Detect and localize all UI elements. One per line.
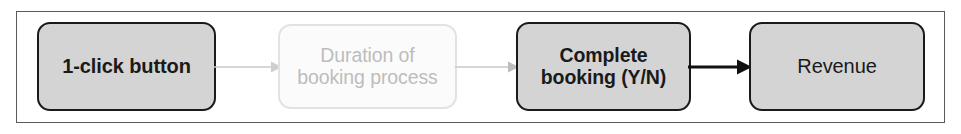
node-duration-of-booking-process-label: Duration of booking process (291, 45, 444, 89)
arrow-complete-booking-to-revenue (688, 53, 752, 81)
arrow-one-click-to-duration (214, 53, 282, 81)
node-revenue[interactable]: Revenue (749, 22, 925, 111)
node-complete-booking-label: Complete booking (Y/N) (535, 45, 672, 89)
node-one-click-button[interactable]: 1-click button (37, 22, 216, 111)
node-complete-booking[interactable]: Complete booking (Y/N) (516, 22, 691, 111)
arrow-faded-icon (214, 53, 282, 81)
arrow-solid-icon (688, 53, 752, 81)
arrow-faded-icon (455, 53, 519, 81)
node-one-click-button-label: 1-click button (56, 55, 197, 77)
flow-diagram: 1-click button Duration of booking proce… (0, 0, 961, 134)
node-revenue-label: Revenue (791, 55, 882, 77)
arrow-duration-to-complete-booking (455, 53, 519, 81)
node-duration-of-booking-process[interactable]: Duration of booking process (278, 24, 457, 109)
